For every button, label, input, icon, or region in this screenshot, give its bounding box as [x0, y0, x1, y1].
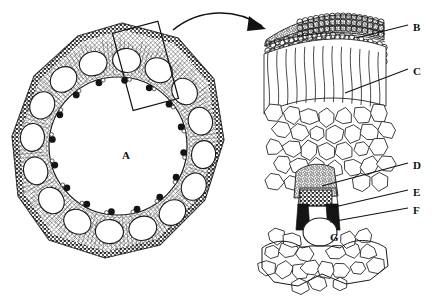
- magnified-detail-panel: [258, 12, 397, 295]
- label-d: D: [413, 160, 421, 171]
- label-e: E: [413, 187, 420, 198]
- figure-canvas: ABCDEFG: [0, 0, 432, 304]
- label-g: G: [330, 232, 339, 243]
- phloem: [300, 190, 332, 206]
- stem-cross-section-overview: [10, 13, 266, 258]
- central-cavity: [49, 77, 187, 215]
- label-a: A: [122, 150, 130, 161]
- curved-arrow-to-detail: [173, 13, 266, 31]
- label-f: F: [413, 205, 420, 216]
- label-c: C: [413, 66, 421, 77]
- label-b: B: [413, 22, 420, 33]
- stem-anatomy-figure: [0, 0, 432, 304]
